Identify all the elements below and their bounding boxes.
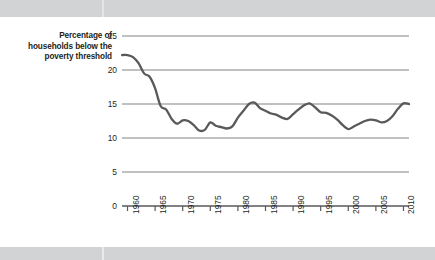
y-tick-label: 0 [95,202,117,211]
x-tick-label: 2000 [352,195,361,214]
x-tick-label: 2005 [380,195,389,214]
x-tick-label: 1980 [242,195,251,214]
x-tick-label: 1985 [270,195,279,214]
y-tick-label: 15 [95,100,117,109]
x-tick-label: 1965 [159,195,168,214]
gridlines-group [122,36,409,172]
chart-plot-area [0,0,435,260]
y-tick-label: 25 [95,32,117,41]
data-series-line [122,55,409,131]
x-tick-label: 1990 [297,195,306,214]
x-tick-label: 2010 [407,195,416,214]
y-tick-label: 20 [95,66,117,75]
y-tick-label: 5 [95,168,117,177]
x-tick-label: 1960 [132,195,141,214]
x-tick-label: 1975 [214,195,223,214]
chart-figure: Percentage of households below the pover… [0,0,435,260]
x-tick-label: 1970 [187,195,196,214]
x-tick-label: 1995 [325,195,334,214]
y-tick-label: 10 [95,134,117,143]
